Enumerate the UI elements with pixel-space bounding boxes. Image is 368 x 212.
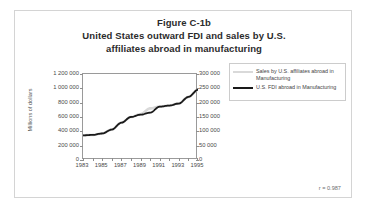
title-line-1: Figure C-1b: [15, 16, 353, 29]
axis-tick-mark: [80, 74, 83, 75]
series-fdi-line: [83, 90, 198, 136]
legend-item-fdi: U.S. FDI abroad in Manufacturing: [233, 84, 342, 91]
x-axis-tick-mark: [141, 158, 142, 161]
axis-tick-mark: [80, 88, 83, 89]
x-axis-tick-label: 1991: [152, 162, 165, 168]
title-line-2: United States outward FDI and sales by U…: [15, 29, 353, 42]
x-axis-tick-mark: [197, 158, 198, 161]
x-axis-tick-mark: [150, 158, 151, 161]
x-axis-tick-mark: [160, 158, 161, 161]
y-axis-title: Millions of dollars: [27, 79, 33, 141]
axis-tick-mark: [196, 117, 199, 118]
x-axis-tick-label: 1983: [76, 162, 89, 168]
series-lines: [83, 74, 198, 160]
axis-tick-label: 0: [199, 156, 243, 162]
chart-legend: Sales by U.S. affiliates abroad in Manuf…: [229, 63, 346, 101]
axis-tick-mark: [80, 146, 83, 147]
axis-tick-label: 1 000 000: [35, 84, 79, 90]
axis-tick-mark: [80, 103, 83, 104]
axis-tick-label: 400 000: [35, 127, 79, 133]
axis-tick-mark: [196, 146, 199, 147]
title-line-3: affiliates abroad in manufacturing: [15, 42, 353, 55]
x-axis-tick-mark: [121, 158, 122, 161]
legend-label-sales: Sales by U.S. affiliates abroad in Manuf…: [256, 68, 342, 81]
axis-tick-label: 600 000: [35, 113, 79, 119]
x-axis-tick-mark: [93, 158, 94, 161]
x-axis-tick-label: 1987: [114, 162, 127, 168]
axis-tick-mark: [196, 88, 199, 89]
axis-tick-mark: [80, 131, 83, 132]
x-axis-tick-mark: [188, 158, 189, 161]
figure-container: Figure C-1b United States outward FDI an…: [14, 10, 352, 198]
axis-tick-label: 100 000: [199, 127, 243, 133]
x-axis-tick-label: 1989: [133, 162, 146, 168]
axis-tick-label: 1 200 000: [35, 70, 79, 76]
legend-swatch-sales: [233, 69, 253, 75]
axis-tick-mark: [196, 74, 199, 75]
x-axis-ticks: 1983198519871989199119931995: [82, 162, 197, 174]
x-axis-tick-mark: [83, 158, 84, 161]
plot-area: [82, 73, 197, 159]
axis-tick-label: 200 000: [35, 142, 79, 148]
figure-title: Figure C-1b United States outward FDI an…: [15, 16, 353, 55]
x-axis-tick-label: 1993: [171, 162, 184, 168]
legend-swatch-fdi: [233, 85, 253, 91]
axis-tick-label: 50 000: [199, 142, 243, 148]
series-sales-line: [83, 90, 198, 136]
x-axis-tick-mark: [169, 158, 170, 161]
x-axis-tick-label: 1995: [191, 162, 204, 168]
axis-tick-mark: [80, 117, 83, 118]
y-axis-left-ticks: 0200 000400 000600 000800 0001 000 0001 …: [35, 73, 79, 159]
legend-item-sales: Sales by U.S. affiliates abroad in Manuf…: [233, 68, 342, 81]
axis-tick-label: 0: [35, 156, 79, 162]
axis-tick-label: 150 000: [199, 113, 243, 119]
x-axis-tick-mark: [179, 158, 180, 161]
correlation-annotation: r = 0.987: [15, 185, 347, 191]
x-axis-tick-label: 1985: [95, 162, 108, 168]
axis-tick-label: 800 000: [35, 99, 79, 105]
legend-label-fdi: U.S. FDI abroad in Manufacturing: [256, 84, 336, 91]
axis-tick-mark: [196, 103, 199, 104]
x-axis-tick-mark: [131, 158, 132, 161]
axis-tick-mark: [196, 131, 199, 132]
x-axis-tick-mark: [112, 158, 113, 161]
x-axis-tick-mark: [102, 158, 103, 161]
